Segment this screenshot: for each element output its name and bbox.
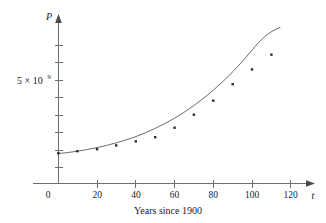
x-tick-label-120: 120 (284, 190, 299, 200)
data-point-t80 (212, 100, 214, 102)
data-point-t20 (96, 148, 98, 150)
x-axis-group: 0 20 40 60 80 100 120 t (33, 180, 315, 202)
fit-curve-group (59, 28, 281, 154)
exponential-model-curve (59, 28, 281, 154)
figure-caption: Years since 1900 (134, 205, 202, 216)
y-axis-arrowhead (55, 14, 62, 23)
data-point-t30 (115, 144, 117, 146)
y-tick-label-value: 5 × 10 (17, 75, 43, 86)
data-point-t40 (135, 140, 137, 142)
data-point-t70 (193, 114, 195, 116)
data-point-t10 (76, 150, 78, 152)
data-point-t90 (232, 83, 234, 85)
x-axis-arrowhead (306, 180, 315, 187)
y-axis-group: P 5 × 10 9 (17, 11, 63, 184)
data-point-t0 (57, 152, 59, 154)
data-point-t110 (270, 54, 272, 56)
data-point-t60 (173, 127, 175, 129)
x-axis-label: t (312, 190, 315, 201)
x-tick-label-20: 20 (92, 190, 102, 200)
data-point-t50 (154, 136, 156, 138)
x-tick-label-40: 40 (131, 190, 141, 200)
population-scatter-figure: P 5 × 10 9 0 20 40 60 80 100 120 t (0, 0, 326, 223)
plot-canvas: P 5 × 10 9 0 20 40 60 80 100 120 t (0, 0, 326, 223)
x-tick-label-100: 100 (245, 190, 260, 200)
y-tick-label-exponent: 9 (48, 73, 51, 80)
data-point-t100 (251, 68, 253, 70)
x-tick-label-0: 0 (46, 190, 51, 200)
y-axis-label: P (45, 11, 52, 22)
data-point-group (57, 54, 272, 155)
x-tick-label-60: 60 (170, 190, 180, 200)
x-tick-label-80: 80 (209, 190, 219, 200)
